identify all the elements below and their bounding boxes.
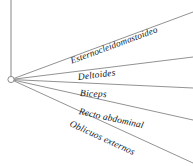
- diagram-canvas: Esternocleidomastoideo Deltoides Biceps …: [0, 0, 193, 166]
- origin-node-marker[interactable]: [8, 76, 14, 82]
- ray-label-biceps[interactable]: Biceps: [80, 88, 107, 99]
- leader-line-biceps[interactable]: [11, 80, 193, 89]
